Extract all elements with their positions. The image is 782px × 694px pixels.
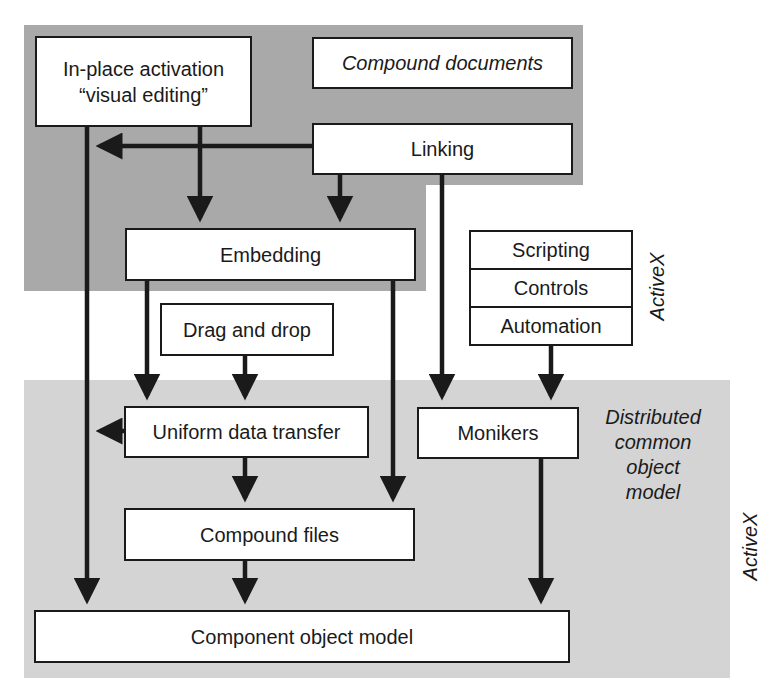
uniform-data-transfer-label: Uniform data transfer bbox=[153, 419, 341, 445]
component-object-model-label: Component object model bbox=[191, 624, 413, 650]
drag-and-drop-label: Drag and drop bbox=[183, 317, 311, 343]
distributed-com-label: Distributed common object model bbox=[588, 405, 718, 505]
in-place-activation-box: In-place activation “visual editing” bbox=[35, 36, 252, 127]
activex-label-top: ActiveX bbox=[646, 247, 669, 327]
activex-stack: Scripting Controls Automation bbox=[469, 230, 633, 346]
compound-files-label: Compound files bbox=[200, 522, 339, 548]
distributed-line-1: Distributed bbox=[588, 405, 718, 430]
compound-files-box: Compound files bbox=[124, 508, 415, 561]
activex-label-bottom: ActiveX bbox=[739, 507, 762, 587]
compound-documents-label: Compound documents bbox=[342, 50, 543, 76]
scripting-row: Scripting bbox=[471, 232, 631, 268]
controls-row: Controls bbox=[471, 268, 631, 306]
distributed-line-2: common bbox=[588, 430, 718, 455]
distributed-line-4: model bbox=[588, 480, 718, 505]
component-object-model-box: Component object model bbox=[34, 610, 570, 663]
visual-editing-label: “visual editing” bbox=[79, 82, 208, 108]
in-place-activation-label: In-place activation bbox=[63, 56, 224, 82]
monikers-label: Monikers bbox=[457, 420, 538, 446]
embedding-box: Embedding bbox=[125, 228, 416, 281]
monikers-box: Monikers bbox=[417, 407, 579, 459]
linking-box: Linking bbox=[312, 123, 573, 175]
embedding-label: Embedding bbox=[220, 242, 321, 268]
compound-documents-box: Compound documents bbox=[312, 37, 573, 89]
automation-row: Automation bbox=[471, 306, 631, 344]
drag-and-drop-box: Drag and drop bbox=[160, 303, 334, 356]
linking-label: Linking bbox=[411, 136, 474, 162]
distributed-line-3: object bbox=[588, 455, 718, 480]
uniform-data-transfer-box: Uniform data transfer bbox=[124, 406, 369, 458]
